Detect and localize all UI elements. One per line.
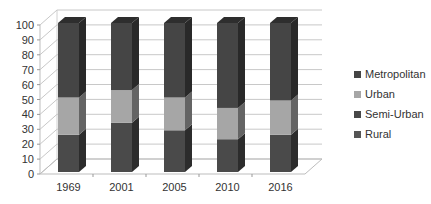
legend-label: Urban xyxy=(365,88,395,100)
bar-segment-rural xyxy=(164,130,185,172)
bar-2010 xyxy=(217,17,245,172)
bar-segment-metropolitan xyxy=(164,23,185,98)
bar-side-urban xyxy=(79,92,86,135)
gridline-diagonal xyxy=(40,10,57,25)
bar-1969 xyxy=(58,17,86,172)
legend-label: Metropolitan xyxy=(365,68,426,80)
legend: MetropolitanUrbanSemi-UrbanRural xyxy=(354,64,426,144)
bar-segment-urban xyxy=(111,90,132,123)
bar-segment-rural xyxy=(270,135,291,172)
x-tick-label: 2001 xyxy=(109,181,133,193)
bar-side-rural xyxy=(185,124,192,172)
x-tick-label: 2005 xyxy=(162,181,186,193)
bar-2005 xyxy=(164,17,192,172)
x-tick-label: 1969 xyxy=(56,181,80,193)
bar-2001 xyxy=(111,17,139,172)
x-tick-label: 2010 xyxy=(215,181,239,193)
legend-swatch xyxy=(354,91,361,98)
gridline-diagonal xyxy=(40,99,57,114)
legend-swatch xyxy=(354,131,361,138)
gridline-diagonal xyxy=(40,25,57,40)
bar-side-rural xyxy=(79,129,86,172)
bar-side-metropolitan xyxy=(79,17,86,98)
legend-label: Rural xyxy=(365,128,391,140)
gridline-diagonal xyxy=(40,114,57,129)
bar-segment-urban xyxy=(164,98,185,131)
y-tick-label: 40 xyxy=(22,108,34,120)
x-axis-ticks: 19692001200520102016 xyxy=(56,174,292,193)
bar-side-metropolitan xyxy=(291,17,298,100)
bar-segment-metropolitan xyxy=(111,23,132,90)
legend-swatch xyxy=(354,71,361,78)
bar-segment-urban xyxy=(217,108,238,139)
x-tick-label: 2016 xyxy=(268,181,292,193)
bar-side-metropolitan xyxy=(185,17,192,98)
y-tick-label: 60 xyxy=(22,79,34,91)
bar-segment-rural xyxy=(217,139,238,172)
bar-2016 xyxy=(270,17,298,172)
bar-segment-rural xyxy=(111,123,132,172)
legend-item-metropolitan: Metropolitan xyxy=(354,64,426,84)
legend-item-urban: Urban xyxy=(354,84,426,104)
y-tick-label: 100 xyxy=(16,19,34,31)
gridline-diagonal xyxy=(40,144,57,159)
bar-side-urban xyxy=(132,84,139,123)
bar-side-rural xyxy=(291,129,298,172)
bar-side-rural xyxy=(238,133,245,172)
y-tick-label: 50 xyxy=(22,94,34,106)
bar-side-metropolitan xyxy=(132,17,139,90)
gridline-diagonal xyxy=(40,85,57,100)
bar-side-urban xyxy=(291,94,298,134)
y-tick-label: 20 xyxy=(22,138,34,150)
y-tick-label: 90 xyxy=(22,34,34,46)
bar-segment-rural xyxy=(58,135,79,172)
bar-side-urban xyxy=(185,92,192,131)
gridline-diagonal xyxy=(40,40,57,55)
legend-item-rural: Rural xyxy=(354,124,426,144)
y-tick-label: 30 xyxy=(22,123,34,135)
bar-side-rural xyxy=(132,117,139,172)
y-tick-label: 10 xyxy=(22,153,34,165)
gridline-diagonal xyxy=(40,70,57,85)
y-tick-label: 80 xyxy=(22,49,34,61)
gridline-diagonal xyxy=(40,55,57,70)
gridline-diagonal xyxy=(40,129,57,144)
bar-side-metropolitan xyxy=(238,17,245,108)
legend-item-semi-urban: Semi-Urban xyxy=(354,104,426,124)
bar-segment-metropolitan xyxy=(58,23,79,98)
y-axis-ticks: 0102030405060708090100 xyxy=(16,19,40,180)
bar-side-urban xyxy=(238,102,245,139)
bar-segment-metropolitan xyxy=(217,23,238,108)
bar-segment-urban xyxy=(58,98,79,135)
legend-label: Semi-Urban xyxy=(365,108,424,120)
bar-segment-urban xyxy=(270,100,291,134)
bar-segment-metropolitan xyxy=(270,23,291,100)
y-tick-label: 0 xyxy=(28,168,34,180)
legend-swatch xyxy=(354,111,361,118)
y-tick-label: 70 xyxy=(22,64,34,76)
